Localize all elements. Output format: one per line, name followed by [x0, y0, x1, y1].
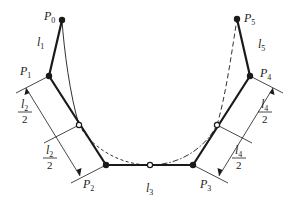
bezier-transition-diagram: P0P1P2P3P4P5l1l3l5l22l22l42l42 — [0, 0, 290, 202]
fraction-den-f2b: 2 — [47, 159, 53, 171]
junction-point-m12 — [76, 122, 81, 127]
fraction-den-f4b: 2 — [236, 159, 242, 171]
control-point-p1 — [46, 73, 52, 79]
fraction-num-f4b: l4 — [235, 143, 242, 159]
dim-tick-m34 — [217, 125, 252, 143]
segment-label-l3: l3 — [146, 181, 153, 197]
control-point-p0 — [59, 17, 65, 23]
control-point-p4 — [247, 73, 253, 79]
dim-line-l4 — [219, 88, 273, 176]
fraction-num-f2b: l2 — [46, 143, 53, 159]
segment-label-l1: l1 — [37, 35, 44, 51]
control-polygon-left — [49, 19, 250, 165]
curve-segment-2 — [79, 125, 150, 165]
junction-point-m34 — [214, 122, 219, 127]
control-point-p5 — [234, 16, 240, 22]
fraction-den-f2a: 2 — [22, 113, 28, 125]
diagram-canvas: P0P1P2P3P4P5l1l3l5l22l22l42l42 — [0, 0, 290, 202]
dim-tick-p3 — [193, 165, 228, 183]
fraction-den-f4a: 2 — [262, 113, 268, 125]
point-label-p3: P3 — [199, 177, 211, 193]
dim-tick-p1 — [16, 76, 49, 93]
dim-line-l2 — [26, 88, 80, 176]
point-label-p0: P0 — [43, 9, 55, 25]
junction-points — [76, 122, 219, 167]
fraction-num-f2a: l2 — [21, 97, 28, 113]
point-label-p5: P5 — [243, 11, 255, 27]
control-point-p3 — [190, 162, 196, 168]
curve-segment-4 — [217, 19, 237, 125]
point-label-p1: P1 — [19, 64, 31, 80]
junction-point-m23 — [147, 162, 152, 167]
point-label-p2: P2 — [82, 177, 94, 193]
fraction-num-f4a: l4 — [261, 97, 268, 113]
dim-tick-m12 — [44, 125, 79, 143]
segment-label-l5: l5 — [258, 37, 265, 53]
control-points — [46, 16, 253, 168]
control-point-p2 — [103, 162, 109, 168]
point-label-p4: P4 — [259, 66, 271, 82]
